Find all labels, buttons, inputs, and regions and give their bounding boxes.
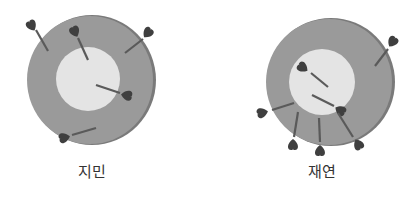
dart-icon	[25, 18, 48, 51]
target-jimin	[25, 15, 156, 145]
target-label-jaeyeon: 재연	[292, 160, 352, 181]
inner-circle	[56, 47, 120, 111]
target-label-jimin: 지민	[62, 160, 122, 181]
dartboard-comparison-figure: 지민 재연	[0, 0, 410, 197]
target-jaeyeon	[256, 18, 400, 156]
